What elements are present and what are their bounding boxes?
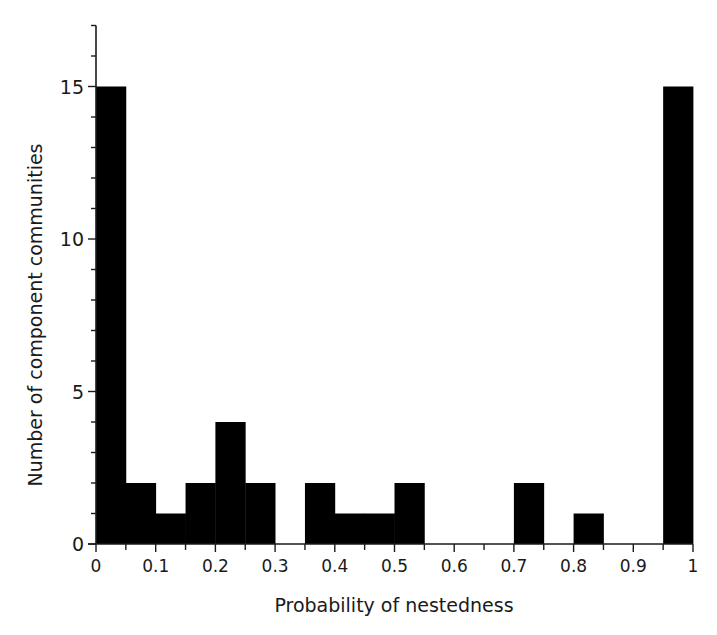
histogram-chart: 051015 00.10.20.30.40.50.60.70.80.91 Pro… <box>0 0 717 635</box>
x-tick-label: 0 <box>91 556 102 576</box>
histogram-bar <box>126 483 156 544</box>
histogram-bar <box>245 483 275 544</box>
histogram-bar <box>156 514 186 545</box>
x-tick-label: 0.2 <box>202 556 229 576</box>
histogram-bars <box>96 87 693 545</box>
y-tick-label: 5 <box>72 381 84 403</box>
histogram-bar <box>215 422 245 544</box>
x-axis: 00.10.20.30.40.50.60.70.80.91 <box>88 544 698 576</box>
x-tick-label: 0.1 <box>142 556 169 576</box>
y-axis-label: Number of component communities <box>24 143 46 486</box>
x-tick-label: 0.9 <box>620 556 647 576</box>
y-tick-label: 15 <box>60 76 84 98</box>
y-tick-label: 0 <box>72 533 84 555</box>
histogram-bar <box>96 87 126 545</box>
histogram-bar <box>365 514 395 545</box>
y-tick-label: 10 <box>60 228 84 250</box>
histogram-bar <box>305 483 335 544</box>
x-tick-label: 0.3 <box>262 556 289 576</box>
histogram-bar <box>514 483 544 544</box>
x-tick-label: 0.7 <box>500 556 527 576</box>
y-axis: 051015 <box>60 26 96 556</box>
histogram-bar <box>663 87 693 545</box>
x-tick-label: 0.6 <box>441 556 468 576</box>
x-tick-label: 1 <box>688 556 699 576</box>
x-axis-label: Probability of nestedness <box>274 594 513 616</box>
histogram-bar <box>335 514 365 545</box>
x-tick-label: 0.5 <box>381 556 408 576</box>
x-tick-label: 0.8 <box>560 556 587 576</box>
histogram-bar <box>395 483 425 544</box>
histogram-bar <box>574 514 604 545</box>
chart-canvas: 051015 00.10.20.30.40.50.60.70.80.91 Pro… <box>0 0 717 635</box>
histogram-bar <box>186 483 216 544</box>
x-tick-label: 0.4 <box>321 556 348 576</box>
